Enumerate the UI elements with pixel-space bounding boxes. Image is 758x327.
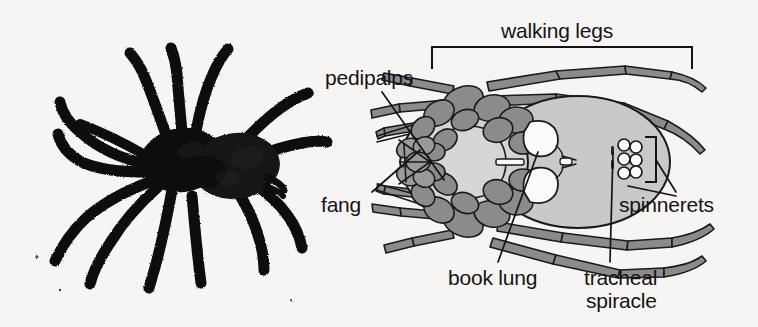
label-spinnerets: spinnerets [619, 193, 714, 216]
walking-legs-bracket [432, 47, 692, 68]
spider-anatomy-figure: walking legs pedipalps fang spinnerets b… [0, 0, 758, 327]
label-pedipalps: pedipalps [325, 66, 413, 89]
label-fang: fang [321, 193, 361, 216]
label-walking-legs: walking legs [501, 19, 613, 42]
label-tracheal: tracheal [584, 266, 657, 289]
label-book-lung: book lung [448, 266, 537, 289]
label-spiracle: spiracle [586, 289, 657, 312]
spinnerets-cluster [618, 139, 642, 179]
